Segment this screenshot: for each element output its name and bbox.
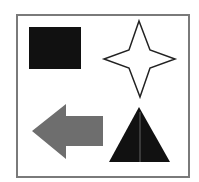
- left-arrow-shape: [32, 104, 103, 159]
- shapes-figure: [0, 0, 199, 182]
- four-point-star-shape: [104, 21, 175, 97]
- black-square-shape: [29, 27, 81, 69]
